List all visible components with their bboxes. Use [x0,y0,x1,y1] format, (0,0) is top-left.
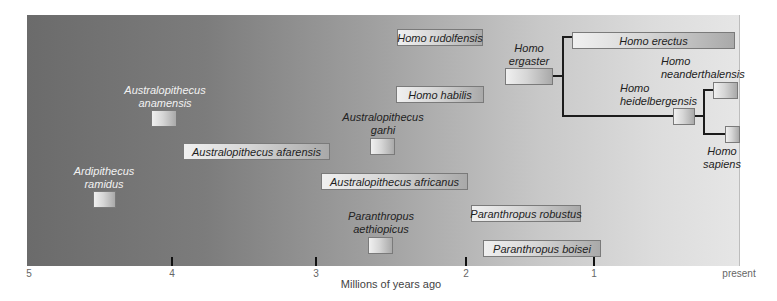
bar-australopithecus-africanus: Australopithecus africanus [321,173,468,190]
connector-to-sapiens [703,133,725,135]
x-axis-label: Millions of years ago [341,278,441,290]
tick-4 [171,257,173,266]
label-homo-heidelbergensis: Homo heidelbergensis [620,82,697,108]
label-ardipithecus-ramidus: Ardipithecus ramidus [68,165,140,191]
bar-ardipithecus-ramidus [93,191,116,208]
label-homo-neanderthalensis: Homo neanderthalensis [661,55,745,81]
tick-2 [465,257,467,266]
connector-to-heidelbergensis [562,115,673,117]
label-homo-ergaster: Homo ergaster [500,42,558,68]
tick-3 [315,257,317,266]
bar-homo-sapiens [725,126,740,143]
connector-heidelbergensis-vertical [703,89,705,135]
tick-label-1: 1 [591,268,597,279]
tick-label-3: 3 [313,268,319,279]
label-australopithecus-anamensis: Australopithecus anamensis [118,84,212,110]
bar-australopithecus-afarensis: Australopithecus afarensis [183,143,330,160]
bar-paranthropus-robustus: Paranthropus robustus [471,205,581,222]
tick-label-4: 4 [169,268,175,279]
connector-to-erectus [562,36,572,38]
label-paranthropus-aethiopicus: Paranthropus aethiopicus [341,210,421,236]
tick-label-present: present [722,268,755,279]
tick-label-5: 5 [26,268,32,279]
label-homo-sapiens: Homo sapiens [702,145,742,171]
bar-homo-rudolfensis: Homo rudolfensis [397,29,483,46]
bar-paranthropus-aethiopicus [368,237,393,254]
bar-paranthropus-boisei: Paranthropus boisei [483,240,601,257]
bar-homo-ergaster [505,68,553,85]
bar-homo-neanderthalensis [713,82,738,99]
tick-label-2: 2 [463,268,469,279]
connector-ergaster-vertical [562,36,564,117]
bar-homo-heidelbergensis [673,108,695,125]
label-australopithecus-garhi: Australopithecus garhi [336,111,430,137]
tick-1 [593,257,595,266]
connector-to-neanderthalensis [703,89,713,91]
bar-homo-habilis: Homo habilis [396,86,484,103]
bar-australopithecus-anamensis [151,110,177,127]
bar-australopithecus-garhi [370,138,395,155]
bar-homo-erectus: Homo erectus [572,32,735,49]
